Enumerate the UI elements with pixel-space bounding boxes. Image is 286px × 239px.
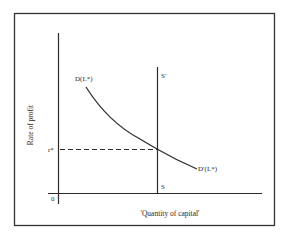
demand-curve-top-label: D(L*) (75, 75, 93, 83)
y-axis-label: Rate of profit (26, 104, 35, 145)
supply-top-label: S′ (161, 72, 167, 80)
equilibrium-rate-label: r* (48, 146, 54, 154)
origin-label: 0 (51, 195, 55, 203)
supply-bottom-label: S (161, 183, 165, 191)
demand-curve-bottom-label: D′(L*) (198, 165, 218, 173)
x-axis-label: 'Quantity of capital' (141, 209, 201, 218)
demand-curve (86, 87, 197, 169)
capital-profit-diagram: D(L*) S′ r* 0 S D′(L*) 'Quantity of capi… (0, 0, 286, 239)
